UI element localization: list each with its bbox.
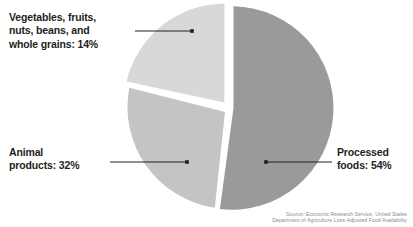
pie-chart-figure: Vegetables, fruits, nuts, beans, and who… <box>0 0 413 227</box>
slice-label-vegetables-fruits: Vegetables, fruits, nuts, beans, and who… <box>9 11 131 51</box>
slice-label-processed-foods: Processed foods: 54% <box>337 146 411 173</box>
pie-slice-processed-foods[interactable] <box>220 6 334 210</box>
chart-source-caption: Source: Economic Research Service, Unite… <box>77 211 407 224</box>
pie-slice-animal-products[interactable] <box>127 88 225 208</box>
pie-slice-vegetables-fruits[interactable] <box>127 3 225 102</box>
slice-label-animal-products: Animal products: 32% <box>9 146 121 173</box>
